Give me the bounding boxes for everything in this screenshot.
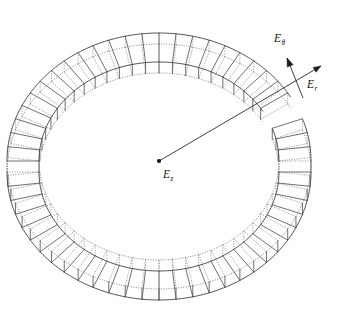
center-point-marker — [157, 159, 161, 163]
azimuthal-label-symbol: E — [274, 32, 281, 44]
azimuthal-axis-label: Eθ — [274, 33, 285, 45]
figure-background — [0, 0, 343, 315]
axial-label-symbol: E — [163, 168, 170, 180]
ring-figure-svg — [0, 0, 343, 315]
radial-axis-label: Er — [307, 79, 317, 91]
radial-label-subscript: r — [314, 85, 317, 93]
ring-diagram-figure: Eθ Er Ez — [0, 0, 343, 315]
radial-label-symbol: E — [307, 78, 314, 90]
azimuthal-label-subscript: θ — [281, 39, 285, 47]
axial-axis-label: Ez — [163, 169, 173, 181]
axial-label-subscript: z — [170, 175, 173, 183]
